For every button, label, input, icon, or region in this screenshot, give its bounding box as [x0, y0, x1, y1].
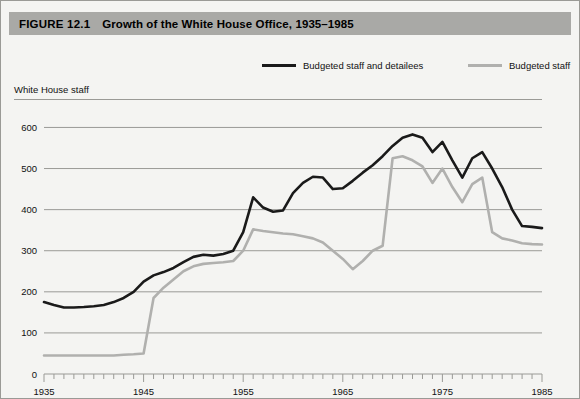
x-tick-label-1945: 1945 — [133, 386, 154, 397]
y-tick-labels-group: 0100200300400500600 — [21, 122, 37, 380]
line-chart-plot: 0100200300400500600 19351945195519651975… — [0, 0, 580, 399]
x-tick-label-1975: 1975 — [432, 386, 453, 397]
y-tick-label-200: 200 — [21, 286, 37, 297]
data-series-group — [44, 134, 542, 355]
x-axis-group — [44, 374, 542, 382]
y-tick-label-0: 0 — [32, 369, 37, 380]
y-tick-label-300: 300 — [21, 245, 37, 256]
y-tick-label-500: 500 — [21, 163, 37, 174]
x-tick-labels-group: 193519451955196519751985 — [33, 386, 552, 397]
y-tick-label-400: 400 — [21, 204, 37, 215]
gridlines-group — [44, 127, 542, 332]
y-tick-label-600: 600 — [21, 122, 37, 133]
x-tick-label-1965: 1965 — [332, 386, 353, 397]
y-tick-label-100: 100 — [21, 327, 37, 338]
series-line-budgeted-staff — [44, 156, 542, 355]
x-tick-label-1935: 1935 — [33, 386, 54, 397]
figure-container: FIGURE 12.1 Growth of the White House Of… — [0, 0, 580, 399]
series-line-budgeted-staff-and-detailees — [44, 134, 542, 307]
x-tick-label-1955: 1955 — [233, 386, 254, 397]
x-tick-label-1985: 1985 — [531, 386, 552, 397]
